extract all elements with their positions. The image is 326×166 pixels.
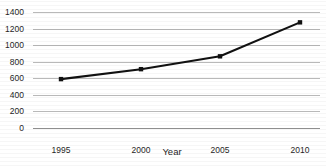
series-markers: [59, 20, 302, 81]
line-chart-figure: 1400 1200 1000 800 600 400 200 0 1995 20…: [0, 0, 326, 166]
data-point-2005: [218, 54, 222, 58]
data-series-layer: [0, 0, 326, 166]
data-point-2000: [139, 67, 143, 71]
data-point-1995: [59, 77, 63, 81]
x-axis-label: Year: [0, 147, 326, 157]
series-line: [61, 22, 300, 79]
x-axis-label-text: Year: [162, 146, 181, 157]
data-point-2010: [298, 20, 302, 24]
